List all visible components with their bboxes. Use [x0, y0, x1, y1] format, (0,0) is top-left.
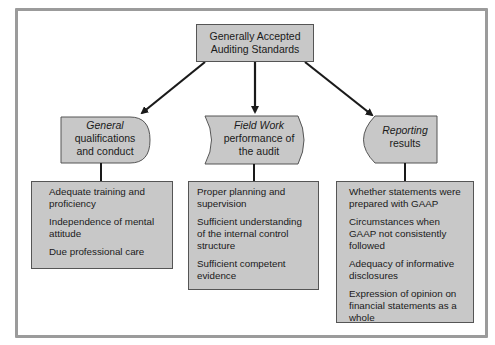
- root-line2: Auditing Standards: [197, 43, 313, 56]
- general-title: General: [86, 119, 123, 131]
- field-work-details: Proper planning and supervision Sufficie…: [188, 181, 319, 290]
- arrow-to-general: [142, 62, 205, 113]
- reporting-item-4: Expression of opinion on financial state…: [349, 288, 467, 324]
- general-item-2: Independence of mental attitude: [49, 216, 166, 240]
- field-work-item-1: Proper planning and supervision: [197, 186, 312, 210]
- root-node: Generally Accepted Auditing Standards: [196, 24, 314, 62]
- reporting-item-1: Whether statements were prepared with GA…: [349, 186, 467, 210]
- field-work-subtitle-1: performance of: [214, 132, 304, 145]
- general-subtitle-1: qualifications: [61, 132, 149, 145]
- reporting-title: Reporting: [382, 124, 428, 136]
- reporting-details: Whether statements were prepared with GA…: [336, 181, 474, 323]
- root-line1: Generally Accepted: [197, 30, 313, 43]
- reporting-subtitle-1: results: [372, 137, 438, 150]
- arrow-to-reporting: [305, 62, 372, 115]
- general-details: Adequate training and proficiency Indepe…: [31, 181, 173, 269]
- field-work-node: Field Work performance of the audit: [214, 119, 304, 158]
- field-work-item-2: Sufficient understanding of the internal…: [197, 216, 312, 252]
- general-subtitle-2: and conduct: [61, 145, 149, 158]
- field-work-subtitle-2: the audit: [214, 145, 304, 158]
- reporting-node: Reporting results: [372, 124, 438, 150]
- field-work-item-3: Sufficient competent evidence: [197, 258, 312, 282]
- field-work-title: Field Work: [234, 119, 284, 131]
- general-item-1: Adequate training and proficiency: [49, 186, 166, 210]
- general-node: General qualifications and conduct: [61, 119, 149, 158]
- general-item-3: Due professional care: [49, 246, 166, 258]
- reporting-item-2: Circumstances when GAAP not consistently…: [349, 216, 467, 252]
- reporting-item-3: Adequacy of informative disclosures: [349, 258, 467, 282]
